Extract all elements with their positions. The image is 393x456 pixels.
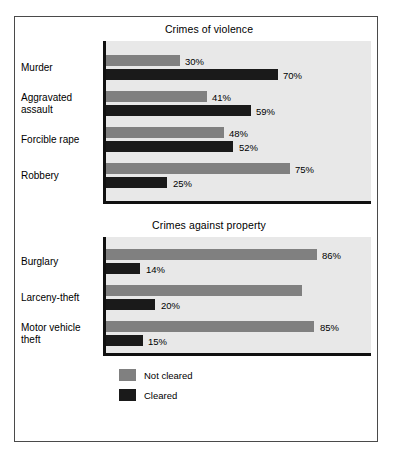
plot-area-crimes-of-violence: 30% 70% 41% 59% 48% 52% xyxy=(103,41,371,204)
bar-value-label: 15% xyxy=(148,335,167,346)
bar-value-label: 85% xyxy=(320,321,339,332)
bar-motor-vehicle-theft-not-cleared xyxy=(106,321,314,332)
category-label-aggravated-assault: Aggravated assault xyxy=(21,92,103,115)
bar-motor-vehicle-theft-cleared xyxy=(106,335,143,346)
bar-murder-not-cleared xyxy=(106,55,180,66)
bar-forcible-rape-cleared xyxy=(106,141,233,152)
legend-item-not-cleared: Not cleared xyxy=(119,369,193,381)
category-label-robbery: Robbery xyxy=(21,170,103,182)
bar-value-label: 70% xyxy=(283,69,302,80)
bar-forcible-rape-not-cleared xyxy=(106,127,224,138)
bar-aggravated-assault-cleared xyxy=(106,105,251,116)
category-label-burglary: Burglary xyxy=(21,256,103,268)
figure-frame: Crimes of violence 30% 70% 41% 59% xyxy=(14,16,378,442)
category-label-forcible-rape: Forcible rape xyxy=(21,134,103,146)
category-label-larceny-theft: Larceny-theft xyxy=(21,292,103,304)
legend-item-cleared: Cleared xyxy=(119,389,193,401)
bar-larceny-theft-cleared xyxy=(106,299,155,310)
bar-value-label: 30% xyxy=(185,55,204,66)
legend-swatch-icon xyxy=(119,369,136,381)
bar-larceny-theft-not-cleared xyxy=(106,285,302,296)
bar-robbery-not-cleared xyxy=(106,163,290,174)
chart-legend: Not cleared Cleared xyxy=(119,369,193,409)
chart-title-crimes-against-property: Crimes against property xyxy=(15,219,377,231)
bar-value-label: 52% xyxy=(239,141,258,152)
bar-burglary-not-cleared xyxy=(106,249,317,260)
bar-robbery-cleared xyxy=(106,177,167,188)
bar-aggravated-assault-not-cleared xyxy=(106,91,207,102)
chart-title-crimes-of-violence: Crimes of violence xyxy=(15,23,377,35)
bar-value-label: 14% xyxy=(146,263,165,274)
bar-value-label: 59% xyxy=(256,105,275,116)
bar-value-label: 41% xyxy=(212,91,231,102)
bar-murder-cleared xyxy=(106,69,278,80)
plot-area-crimes-against-property: 86% 14% 20% 85% 15% xyxy=(103,237,371,356)
category-label-murder: Murder xyxy=(21,62,103,74)
bar-value-label: 25% xyxy=(173,177,192,188)
legend-swatch-icon xyxy=(119,389,136,401)
category-label-motor-vehicle-theft: Motor vehicle theft xyxy=(21,322,103,345)
chart-panel-crimes-against-property: Crimes against property 86% 14% 20% xyxy=(15,215,377,361)
bar-burglary-cleared xyxy=(106,263,140,274)
legend-label: Cleared xyxy=(144,390,177,401)
legend-label: Not cleared xyxy=(144,370,193,381)
bar-value-label: 86% xyxy=(322,249,341,260)
bar-value-label: 20% xyxy=(161,299,180,310)
chart-panel-crimes-of-violence: Crimes of violence 30% 70% 41% 59% xyxy=(15,19,377,219)
bar-value-label: 75% xyxy=(295,163,314,174)
bar-value-label: 48% xyxy=(229,127,248,138)
